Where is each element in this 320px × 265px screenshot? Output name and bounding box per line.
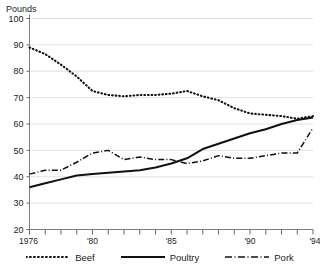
dash-dot-line-icon bbox=[225, 253, 269, 261]
legend-label-poultry: Poultry bbox=[170, 252, 200, 263]
y-tick-label: 40 bbox=[13, 172, 23, 182]
solid-line-icon bbox=[121, 253, 165, 261]
y-tick-label: 60 bbox=[13, 119, 23, 129]
x-tick-label: '94 bbox=[309, 236, 320, 246]
x-tick-label: 1976 bbox=[19, 236, 38, 246]
y-tick-label: 70 bbox=[13, 93, 23, 103]
series-line-beef bbox=[30, 48, 314, 119]
legend-label-pork: Pork bbox=[274, 252, 294, 263]
legend-item-poultry: Poultry bbox=[121, 249, 200, 265]
dotted-line-icon bbox=[26, 253, 70, 261]
x-tick-label: '90 bbox=[244, 236, 255, 246]
y-tick-label: 80 bbox=[13, 66, 23, 76]
y-tick-label: 30 bbox=[13, 198, 23, 208]
legend-item-pork: Pork bbox=[225, 249, 294, 265]
line-chart-plot: 2030405060708090100 1976'80'85'90'94 bbox=[0, 0, 320, 265]
legend-label-beef: Beef bbox=[75, 252, 95, 263]
x-tick-label: '80 bbox=[87, 236, 98, 246]
x-tick-label: '85 bbox=[166, 236, 177, 246]
gridlines bbox=[27, 19, 314, 230]
x-axis-tick-labels: 1976'80'85'90'94 bbox=[19, 236, 320, 246]
legend-item-beef: Beef bbox=[26, 249, 95, 265]
chart-container: PER CAPITA CONSUMPTION OF MEAT Pounds 20… bbox=[0, 0, 320, 265]
y-tick-label: 90 bbox=[13, 40, 23, 50]
data-series-layer bbox=[30, 48, 314, 188]
y-tick-label: 50 bbox=[13, 146, 23, 156]
y-axis-tick-labels: 2030405060708090100 bbox=[8, 14, 23, 235]
series-line-pork bbox=[30, 128, 314, 174]
y-tick-label: 20 bbox=[13, 225, 23, 235]
chart-legend: Beef Poultry Pork bbox=[0, 249, 320, 265]
x-axis-tick-marks bbox=[30, 230, 314, 235]
y-tick-label: 100 bbox=[8, 14, 23, 24]
